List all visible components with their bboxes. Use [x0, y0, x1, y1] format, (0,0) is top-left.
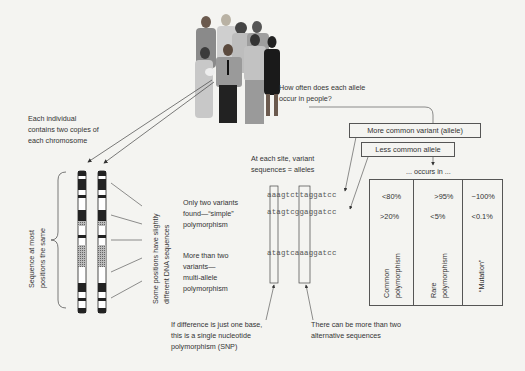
simple-line1: Only two variants	[183, 197, 238, 208]
frequency-table: <80% >20% Common polymorphism >95% <5% R…	[369, 179, 503, 306]
chromosome-left	[78, 171, 86, 313]
brace-label-line2: positions the same	[37, 228, 48, 288]
multi-line2: variants—	[183, 261, 215, 272]
multi-line3: multi-allele	[183, 272, 217, 283]
differences-label-line2: different DNA sequences	[161, 213, 172, 304]
brace-label-line1: Sequence at most	[26, 228, 37, 288]
simple-line3: polymorphism	[183, 219, 228, 230]
alt-note-line2: alternative sequences	[311, 330, 381, 341]
site-label-line1: At each site, variant	[251, 153, 314, 164]
question-line2: occur in people?	[279, 93, 332, 104]
multi-line1: More than two	[183, 250, 229, 261]
simple-line2: found—“simple”	[183, 208, 234, 219]
rare-label-line1: Rare	[428, 253, 439, 298]
column-mutation: ~100% <0.1% “Mutation”	[463, 180, 502, 305]
differences-label-line1: Some positions have slightly	[150, 213, 161, 304]
mutation-label-line1: “Mutation”	[476, 260, 487, 292]
common-polymorphism-label: Common polymorphism	[381, 253, 403, 298]
column-common-polymorphism: <80% >20% Common polymorphism	[370, 180, 414, 305]
rare-more-pct: >95%	[434, 192, 453, 201]
multi-line4: polymorphism	[183, 283, 228, 294]
common-more-pct: <80%	[382, 192, 401, 201]
chromosome-right	[98, 171, 106, 313]
individual-line3: each chromosome	[28, 135, 87, 146]
column-rare-polymorphism: >95% <5% Rare polymorphism	[414, 180, 462, 305]
rare-polymorphism-label: Rare polymorphism	[428, 253, 450, 298]
common-label-line2: polymorphism	[392, 253, 403, 298]
differences-label: Some positions have slightly different D…	[150, 213, 172, 304]
snp-note-line2: this is a single nucleotide	[171, 330, 251, 341]
sequence-3: atagtcaaaggatcc	[267, 248, 337, 259]
less-common-allele-box: Less common allele	[361, 142, 455, 157]
sequence-2: atagtcggaggatcc	[267, 207, 337, 218]
sequence-1: aaagtcttaggatcc	[267, 190, 337, 201]
question-line1: How often does each allele	[279, 82, 365, 93]
site-label-line2: sequences = alleles	[251, 164, 314, 175]
common-less-pct: >20%	[380, 212, 399, 221]
rare-label-line2: polymorphism	[439, 253, 450, 298]
people-illustration	[195, 14, 280, 124]
snp-note-line1: If difference is just one base,	[171, 319, 262, 330]
mutation-more-pct: ~100%	[472, 192, 495, 201]
more-common-variant-box: More common variant (allele)	[349, 123, 481, 138]
alt-note-line1: There can be more than two	[311, 319, 401, 330]
mutation-label: “Mutation”	[476, 260, 487, 292]
mutation-less-pct: <0.1%	[472, 212, 493, 221]
rare-less-pct: <5%	[430, 212, 445, 221]
brace-label: Sequence at most positions the same	[26, 228, 48, 288]
occurs-in-label: ... occurs in ...	[406, 166, 451, 177]
individual-line2: contains two copies of	[28, 124, 99, 135]
brace	[51, 172, 66, 308]
snp-note-line3: polymorphism (SNP)	[171, 341, 237, 352]
common-label-line1: Common	[381, 253, 392, 298]
individual-line1: Each individual	[28, 113, 76, 124]
